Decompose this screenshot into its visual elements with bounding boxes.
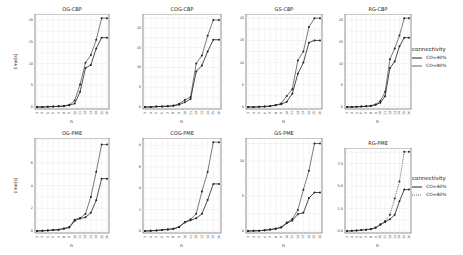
- plot-area: 34567891011121314151605101520: [232, 14, 328, 121]
- svg-text:13: 13: [393, 235, 397, 239]
- plot-area: 3456789101112131415160.02.55.07.5: [331, 148, 417, 245]
- svg-text:11: 11: [383, 235, 387, 239]
- svg-text:10: 10: [73, 111, 77, 115]
- legend-label: CO=80%: [426, 192, 446, 197]
- svg-text:6: 6: [160, 236, 164, 238]
- svg-text:11: 11: [383, 111, 387, 115]
- svg-text:11: 11: [78, 111, 82, 115]
- svg-text:6: 6: [160, 112, 164, 114]
- svg-text:12: 12: [194, 111, 198, 115]
- svg-text:8: 8: [62, 236, 66, 238]
- svg-text:4: 4: [350, 236, 354, 238]
- svg-text:11: 11: [189, 111, 193, 115]
- svg-text:2.5: 2.5: [338, 207, 343, 211]
- svg-text:3: 3: [35, 236, 39, 238]
- svg-text:6: 6: [139, 165, 141, 169]
- svg-text:9: 9: [177, 236, 181, 238]
- svg-text:7: 7: [166, 112, 170, 114]
- svg-text:16: 16: [407, 111, 411, 115]
- svg-text:10: 10: [183, 111, 187, 115]
- svg-text:0: 0: [341, 105, 343, 109]
- svg-text:0: 0: [242, 229, 244, 233]
- svg-text:5: 5: [355, 236, 359, 238]
- svg-text:0: 0: [139, 105, 141, 109]
- svg-text:14: 14: [94, 235, 98, 239]
- svg-text:7: 7: [364, 112, 368, 114]
- svg-text:15: 15: [240, 38, 244, 42]
- svg-text:10: 10: [285, 235, 289, 239]
- svg-text:6: 6: [51, 236, 55, 238]
- legend-top: connectivity CO=40% CO=80%: [412, 46, 446, 71]
- svg-text:13: 13: [200, 235, 204, 239]
- svg-text:14: 14: [206, 235, 210, 239]
- legend-entry-co80: CO=80%: [412, 63, 446, 68]
- svg-text:8: 8: [274, 236, 278, 238]
- svg-text:9: 9: [279, 112, 283, 114]
- svg-text:16: 16: [318, 235, 322, 239]
- plot-area: 34567891011121314151605101520: [331, 14, 417, 121]
- x-axis-label: n: [180, 119, 183, 124]
- svg-text:15: 15: [100, 235, 104, 239]
- svg-text:15: 15: [137, 46, 141, 50]
- svg-text:6: 6: [31, 161, 33, 165]
- svg-text:4: 4: [149, 112, 153, 114]
- legend-title: connectivity: [412, 175, 446, 181]
- svg-text:16: 16: [318, 111, 322, 115]
- svg-text:3: 3: [246, 236, 250, 238]
- svg-text:8: 8: [139, 143, 141, 147]
- svg-text:5: 5: [154, 112, 158, 114]
- svg-text:3: 3: [345, 112, 349, 114]
- svg-text:12: 12: [296, 111, 300, 115]
- plot-area: 34567891011121314151605101520: [21, 14, 115, 121]
- svg-text:12: 12: [194, 235, 198, 239]
- plot-area: 34567891011121314151602468: [129, 138, 227, 245]
- svg-text:10: 10: [339, 62, 343, 66]
- svg-text:10: 10: [183, 235, 187, 239]
- svg-text:0: 0: [242, 105, 244, 109]
- svg-text:14: 14: [206, 111, 210, 115]
- svg-text:12: 12: [388, 111, 392, 115]
- x-axis-label: n: [70, 243, 73, 248]
- svg-text:13: 13: [393, 111, 397, 115]
- svg-text:4: 4: [31, 184, 33, 188]
- svg-text:10: 10: [378, 111, 382, 115]
- svg-text:15: 15: [312, 111, 316, 115]
- chart-title: OG-CBP: [35, 6, 109, 12]
- svg-text:10: 10: [73, 235, 77, 239]
- svg-text:5: 5: [46, 112, 50, 114]
- legend-label: CO=80%: [426, 63, 446, 68]
- svg-text:13: 13: [89, 111, 93, 115]
- svg-text:20: 20: [240, 16, 244, 20]
- svg-text:12: 12: [296, 235, 300, 239]
- svg-text:5: 5: [355, 112, 359, 114]
- svg-text:13: 13: [301, 111, 305, 115]
- svg-text:4: 4: [252, 236, 256, 238]
- svg-text:5: 5: [242, 83, 244, 87]
- svg-text:13: 13: [89, 235, 93, 239]
- chart-title: GS-PME: [246, 130, 322, 136]
- svg-text:16: 16: [105, 111, 109, 115]
- svg-text:7.5: 7.5: [338, 162, 343, 166]
- svg-text:7: 7: [57, 236, 61, 238]
- svg-text:4: 4: [252, 112, 256, 114]
- svg-text:15: 15: [312, 235, 316, 239]
- x-axis-label: n: [376, 243, 379, 248]
- svg-text:0: 0: [139, 229, 141, 233]
- svg-text:11: 11: [78, 235, 82, 239]
- svg-text:16: 16: [217, 235, 221, 239]
- svg-text:15: 15: [29, 40, 33, 44]
- svg-text:6: 6: [263, 236, 267, 238]
- chart-title: COG-CBP: [143, 6, 221, 12]
- svg-text:9: 9: [67, 236, 71, 238]
- y-axis-label: time(s): [13, 53, 18, 69]
- svg-text:9: 9: [374, 236, 378, 238]
- svg-text:12: 12: [83, 111, 87, 115]
- svg-text:4: 4: [350, 112, 354, 114]
- svg-text:20: 20: [29, 18, 33, 22]
- svg-text:8: 8: [369, 236, 373, 238]
- svg-text:15: 15: [402, 111, 406, 115]
- svg-text:15: 15: [339, 40, 343, 44]
- svg-text:20: 20: [137, 26, 141, 30]
- svg-text:14: 14: [397, 235, 401, 239]
- svg-text:12: 12: [83, 235, 87, 239]
